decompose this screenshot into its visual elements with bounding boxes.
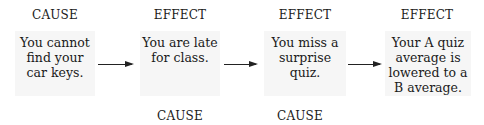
node-1-box: You cannot find your car keys. — [15, 31, 95, 96]
node-4-line-2: average is — [385, 50, 471, 65]
node-1-line-3: car keys. — [15, 65, 95, 80]
node-4-line-4: B average. — [385, 80, 471, 95]
node-1-line-2: find your — [15, 50, 95, 65]
node-4-box: Your A quiz average is lowered to a B av… — [385, 31, 471, 96]
node-2-box: You are late for class. — [140, 31, 220, 96]
node-3-top-label: EFFECT — [260, 8, 350, 22]
node-4-line-3: lowered to a — [385, 65, 471, 80]
node-2-line-1: You are late — [140, 35, 220, 50]
node-2-bottom-label: CAUSE — [135, 109, 225, 123]
node-4-top-label: EFFECT — [382, 8, 472, 22]
node-3-line-2: surprise quiz. — [264, 50, 346, 80]
arrow-1-icon — [98, 64, 132, 65]
arrow-2-icon — [224, 64, 256, 65]
node-3-line-1: You miss a — [264, 35, 346, 50]
node-3-bottom-label: CAUSE — [255, 109, 345, 123]
node-2-line-2: for class. — [140, 50, 220, 65]
node-4-line-1: Your A quiz — [385, 35, 471, 50]
node-2-top-label: EFFECT — [135, 8, 225, 22]
arrow-3-icon — [348, 64, 380, 65]
node-1-top-label: CAUSE — [10, 8, 100, 22]
node-1-line-1: You cannot — [15, 35, 95, 50]
node-3-box: You miss a surprise quiz. — [264, 31, 346, 96]
